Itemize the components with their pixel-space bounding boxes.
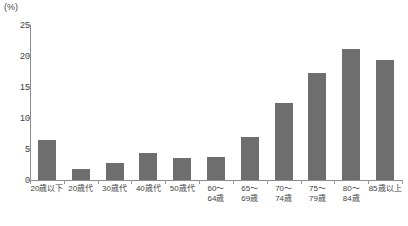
bar <box>342 49 360 180</box>
bar <box>275 103 293 181</box>
x-axis-label-line1: 80〜 <box>343 184 360 193</box>
bar <box>38 140 56 180</box>
x-axis-label-line1: 20歳以下 <box>30 184 63 193</box>
x-axis-label-line1: 70〜 <box>275 184 292 193</box>
bar <box>376 60 394 180</box>
x-axis-label-line2: 84歳 <box>330 194 372 204</box>
x-axis-label: 85歳以上 <box>364 184 406 194</box>
bar <box>173 158 191 180</box>
bars-layer <box>30 25 402 180</box>
bar <box>106 163 124 180</box>
y-tick-mark <box>27 87 31 88</box>
x-axis-line <box>30 180 402 181</box>
bar <box>207 157 225 180</box>
x-axis-label-line1: 50歳代 <box>170 184 195 193</box>
x-axis-label-line1: 20歳代 <box>68 184 93 193</box>
x-axis-labels: 20歳以下20歳代30歳代40歳代50歳代60〜64歳65〜69歳70〜74歳7… <box>30 184 402 224</box>
bar-chart: (%) 0510152025 20歳以下20歳代30歳代40歳代50歳代60〜6… <box>0 0 408 226</box>
bar <box>241 137 259 180</box>
bar <box>308 73 326 180</box>
x-axis-label-line1: 30歳代 <box>102 184 127 193</box>
x-axis-label-line1: 40歳代 <box>136 184 161 193</box>
y-tick-mark <box>27 149 31 150</box>
y-tick-mark <box>27 56 31 57</box>
x-axis-label-line1: 75〜 <box>309 184 326 193</box>
bar <box>139 153 157 180</box>
y-tick-mark <box>27 25 31 26</box>
bar <box>72 169 90 180</box>
y-axis-unit-label: (%) <box>4 2 18 12</box>
y-tick-mark <box>27 118 31 119</box>
x-axis-label-line1: 65〜 <box>241 184 258 193</box>
x-axis-label-line1: 60〜 <box>208 184 225 193</box>
x-axis-label-line1: 85歳以上 <box>369 184 402 193</box>
plot-area <box>30 25 402 180</box>
